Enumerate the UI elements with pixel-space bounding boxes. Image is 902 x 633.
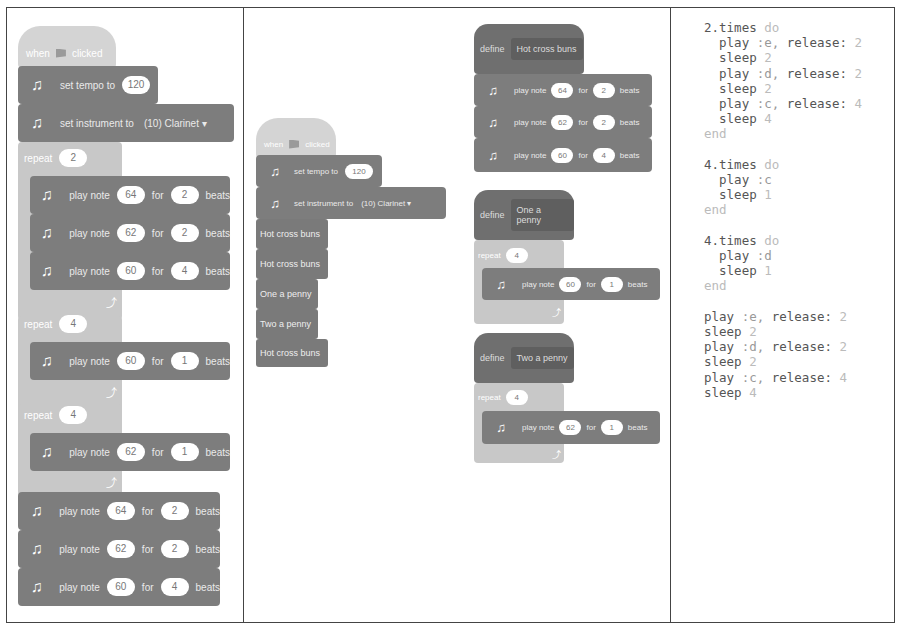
play-note-block[interactable]: ♫ play note 64 for 2 beats — [30, 176, 230, 214]
block-label: for — [152, 228, 164, 239]
define-block[interactable]: define One a penny — [474, 190, 574, 240]
note-input[interactable]: 64 — [551, 83, 573, 98]
block-label: for — [142, 582, 154, 593]
set-tempo-block[interactable]: ♫ set tempo to 120 — [256, 155, 382, 187]
block-label: play note — [514, 151, 546, 160]
code-line: 4.times do — [704, 233, 862, 248]
code-line: sleep 1 — [704, 187, 862, 202]
beats-input[interactable]: 2 — [161, 502, 189, 520]
beats-input[interactable]: 4 — [593, 148, 615, 163]
play-note-block[interactable]: ♫ play note 60 for 4 beats — [474, 138, 652, 172]
note-input[interactable]: 62 — [107, 540, 135, 558]
when-flag-clicked-hat[interactable]: when clicked — [18, 26, 116, 68]
music-note-icon: ♫ — [488, 278, 514, 291]
instrument-dropdown[interactable]: (10) Clarinet ▾ — [144, 118, 207, 129]
block-label: beats — [620, 86, 640, 95]
code-line: sleep 2 — [704, 81, 862, 96]
repeat-count-input[interactable]: 4 — [59, 406, 87, 424]
custom-block-call[interactable]: Two a penny — [256, 309, 318, 339]
music-note-icon: ♫ — [480, 84, 506, 97]
code-line: end — [704, 126, 862, 141]
custom-block-call[interactable]: One a penny — [256, 279, 318, 309]
block-label: beats — [206, 356, 230, 367]
when-flag-clicked-hat[interactable]: when clicked — [256, 118, 336, 158]
beats-input[interactable]: 2 — [593, 115, 615, 130]
code-line — [704, 218, 862, 233]
play-note-block[interactable]: ♫ play note 60 for 4 beats — [30, 252, 230, 290]
tempo-input[interactable]: 120 — [122, 76, 150, 94]
instrument-dropdown[interactable]: (10) Clarinet ▾ — [361, 199, 411, 208]
repeat-count-input[interactable]: 4 — [506, 248, 528, 263]
block-label: beats — [206, 228, 230, 239]
code-line: play :e, release: 2 — [704, 309, 862, 324]
note-input[interactable]: 60 — [117, 352, 145, 370]
beats-input[interactable]: 2 — [593, 83, 615, 98]
repeat-label: repeat — [478, 251, 501, 260]
custom-block-call[interactable]: Hot cross buns — [256, 249, 328, 279]
music-note-icon: ♫ — [38, 187, 55, 203]
note-input[interactable]: 60 — [107, 578, 135, 596]
block-label: beats — [628, 423, 648, 432]
set-tempo-block[interactable]: ♫ set tempo to 120 — [18, 66, 158, 104]
set-instrument-block[interactable]: ♫ set instrument to (10) Clarinet ▾ — [256, 187, 446, 219]
repeat-header: repeat 4 — [24, 405, 94, 425]
beats-input[interactable]: 2 — [171, 224, 199, 242]
note-input[interactable]: 62 — [559, 420, 581, 435]
play-note-block[interactable]: ♫ play note 62 for 2 beats — [474, 106, 652, 138]
play-note-block[interactable]: ♫ play note 62 for 1 beats — [30, 433, 230, 471]
note-input[interactable]: 62 — [117, 443, 145, 461]
beats-input[interactable]: 4 — [171, 262, 199, 280]
play-note-block[interactable]: ♫ play note 64 for 2 beats — [474, 74, 652, 106]
beats-input[interactable]: 1 — [171, 352, 199, 370]
beats-input[interactable]: 2 — [171, 186, 199, 204]
code-line: play :c, release: 4 — [704, 96, 862, 111]
tempo-input[interactable]: 120 — [345, 164, 373, 179]
play-note-block[interactable]: ♫ play note 64 for 2 beats — [18, 492, 220, 530]
repeat-label: repeat — [24, 319, 52, 330]
custom-block-call[interactable]: Hot cross buns — [256, 219, 328, 249]
define-block[interactable]: define Two a penny — [474, 333, 574, 383]
code-line: sleep 2 — [704, 354, 862, 369]
note-input[interactable]: 62 — [551, 115, 573, 130]
custom-block-call[interactable]: Hot cross buns — [256, 339, 328, 367]
define-name: Hot cross buns — [511, 38, 583, 60]
play-note-block[interactable]: ♫ play note 60 for 4 beats — [18, 568, 220, 606]
block-label: play note — [69, 190, 110, 201]
beats-input[interactable]: 4 — [161, 578, 189, 596]
note-input[interactable]: 60 — [559, 277, 581, 292]
define-block[interactable]: define Hot cross buns — [474, 24, 584, 74]
code-line: play :e, release: 2 — [704, 35, 862, 50]
call-label: One a penny — [260, 289, 312, 299]
play-note-block[interactable]: ♫ play note 62 for 1 beats — [482, 411, 660, 444]
note-input[interactable]: 62 — [117, 224, 145, 242]
beats-input[interactable]: 2 — [161, 540, 189, 558]
note-input[interactable]: 60 — [117, 262, 145, 280]
note-input[interactable]: 64 — [107, 502, 135, 520]
note-input[interactable]: 60 — [551, 148, 573, 163]
block-label: for — [152, 266, 164, 277]
code-line — [704, 294, 862, 309]
music-note-icon: ♫ — [262, 165, 288, 178]
block-label: play note — [59, 506, 100, 517]
divider-2 — [670, 7, 671, 623]
beats-input[interactable]: 1 — [601, 420, 623, 435]
code-line: 4.times do — [704, 157, 862, 172]
repeat-count-input[interactable]: 4 — [59, 315, 87, 333]
note-input[interactable]: 64 — [117, 186, 145, 204]
play-note-block[interactable]: ♫ play note 60 for 1 beats — [30, 342, 230, 380]
block-label: play note — [69, 228, 110, 239]
repeat-count-input[interactable]: 2 — [59, 149, 87, 167]
repeat-label: repeat — [24, 410, 52, 421]
set-instrument-block[interactable]: ♫ set instrument to (10) Clarinet ▾ — [18, 104, 234, 142]
music-note-icon: ♫ — [24, 541, 49, 557]
loop-arrow-icon: ⤴ — [106, 384, 117, 400]
code-line: play :d, release: 2 — [704, 66, 862, 81]
play-note-block[interactable]: ♫ play note 62 for 2 beats — [30, 214, 230, 252]
beats-input[interactable]: 1 — [601, 277, 623, 292]
play-note-block[interactable]: ♫ play note 60 for 1 beats — [482, 268, 660, 300]
call-label: Hot cross buns — [260, 259, 320, 269]
repeat-count-input[interactable]: 4 — [506, 390, 528, 405]
block-label: for — [586, 280, 595, 289]
beats-input[interactable]: 1 — [171, 443, 199, 461]
play-note-block[interactable]: ♫ play note 62 for 2 beats — [18, 530, 220, 568]
